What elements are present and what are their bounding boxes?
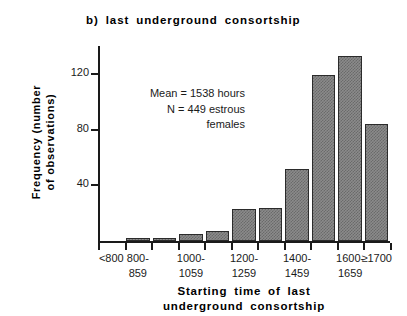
bar <box>259 208 283 241</box>
x-axis-tick-label-line1: ≥1700 <box>349 251 405 266</box>
bar <box>312 75 336 241</box>
x-axis-tick <box>390 243 392 250</box>
x-axis-tick <box>310 243 312 250</box>
x-axis-tick-label: 800-859 <box>110 251 166 281</box>
x-axis-tick <box>257 243 259 250</box>
bar <box>232 209 256 241</box>
x-axis-tick <box>178 243 180 250</box>
y-axis-tick-label: 40 <box>49 177 89 189</box>
x-axis-tick-label-line2: 859 <box>110 266 166 281</box>
bar <box>365 124 389 241</box>
x-axis-tick-label: 1000-1059 <box>163 251 219 281</box>
x-axis-title: Starting time of last underground consor… <box>98 284 390 314</box>
chart-figure: b) last underground consortship Frequenc… <box>0 0 407 316</box>
x-axis-tick-label-line1: 1200- <box>216 251 272 266</box>
x-axis-tick-label-line1: 800- <box>110 251 166 266</box>
x-axis-tick <box>337 243 339 250</box>
x-axis-tick-label-line2: 1659 <box>322 266 378 281</box>
bar <box>206 231 230 241</box>
x-axis-tick <box>204 243 206 250</box>
bar <box>126 238 150 241</box>
x-axis-tick-labels: <800800-8591000-10591200-12591400-145916… <box>98 251 390 283</box>
annotation-line-n: N = 449 estrous <box>115 102 245 118</box>
x-axis-tick <box>125 243 127 250</box>
x-axis-tick-label: 1400-1459 <box>269 251 325 281</box>
y-axis-tick-label: 120 <box>49 66 89 78</box>
x-axis-tick-label-line2: 1259 <box>216 266 272 281</box>
x-axis-tick-label-line2: 1059 <box>163 266 219 281</box>
bar <box>179 234 203 241</box>
bar <box>338 56 362 241</box>
x-axis-line <box>98 241 390 243</box>
x-axis-tick-label-line1: 1400- <box>269 251 325 266</box>
x-axis-tick-label-line1: 1000- <box>163 251 219 266</box>
x-axis-tick-label-line2: 1459 <box>269 266 325 281</box>
chart-annotation: Mean = 1538 hours N = 449 estrous female… <box>115 86 245 133</box>
chart-title: b) last underground consortship <box>86 14 301 26</box>
annotation-line-females: females <box>115 117 245 133</box>
bar <box>153 238 177 241</box>
x-axis-tick-label: 1200-1259 <box>216 251 272 281</box>
x-axis-tick <box>284 243 286 250</box>
x-axis-title-line2: underground consortship <box>98 299 390 314</box>
x-axis-tick-label: ≥1700 <box>349 251 405 266</box>
x-axis-tick <box>231 243 233 250</box>
y-axis-title-line1: Frequency (number <box>30 85 42 200</box>
y-axis-tick-label: 80 <box>49 122 89 134</box>
bar <box>285 169 309 241</box>
x-axis-title-line1: Starting time of last <box>177 285 310 297</box>
bar-series <box>98 46 390 241</box>
x-axis-tick <box>98 243 100 250</box>
annotation-line-mean: Mean = 1538 hours <box>115 86 245 102</box>
x-axis-tick <box>151 243 153 250</box>
x-axis-tick <box>363 243 365 250</box>
